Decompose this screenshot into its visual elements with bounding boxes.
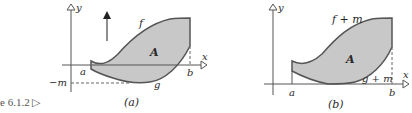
bound-b-label: b — [187, 67, 193, 78]
curve-g-plus-m-label: g + m — [362, 73, 393, 84]
curve-f-label: f — [138, 17, 145, 30]
panel-a-label: (a) — [124, 96, 139, 109]
region-a-label: A — [149, 46, 159, 59]
y-axis-arrow-icon — [269, 4, 277, 10]
up-arrow-icon — [103, 11, 111, 19]
x-axis-label: x — [202, 51, 208, 62]
region-b-label: A — [345, 53, 355, 66]
minus-m-label: −m — [49, 77, 67, 88]
figure-6-1-2: y x f A g a b −m (a) e 6.1.2 ▷ y x — [0, 0, 412, 113]
panel-a: y x f A g a b −m (a) — [49, 2, 208, 109]
x-axis-arrow-icon — [403, 80, 409, 88]
y-axis-label: y — [277, 2, 284, 13]
y-axis-arrow-icon — [67, 4, 75, 10]
bound-a-label: a — [289, 87, 295, 98]
y-axis-label: y — [75, 2, 82, 13]
x-axis-label: x — [403, 69, 409, 80]
x-axis-arrow-icon — [201, 61, 207, 69]
figure-caption: e 6.1.2 ▷ — [0, 96, 41, 108]
bound-a-label: a — [80, 66, 86, 77]
panel-b-label: (b) — [328, 98, 344, 111]
curve-g-label: g — [154, 79, 160, 90]
panel-b: y x f + m A g + m a b (b) — [264, 2, 409, 111]
curve-f-plus-m-label: f + m — [331, 13, 363, 26]
bound-b-label: b — [389, 87, 395, 98]
